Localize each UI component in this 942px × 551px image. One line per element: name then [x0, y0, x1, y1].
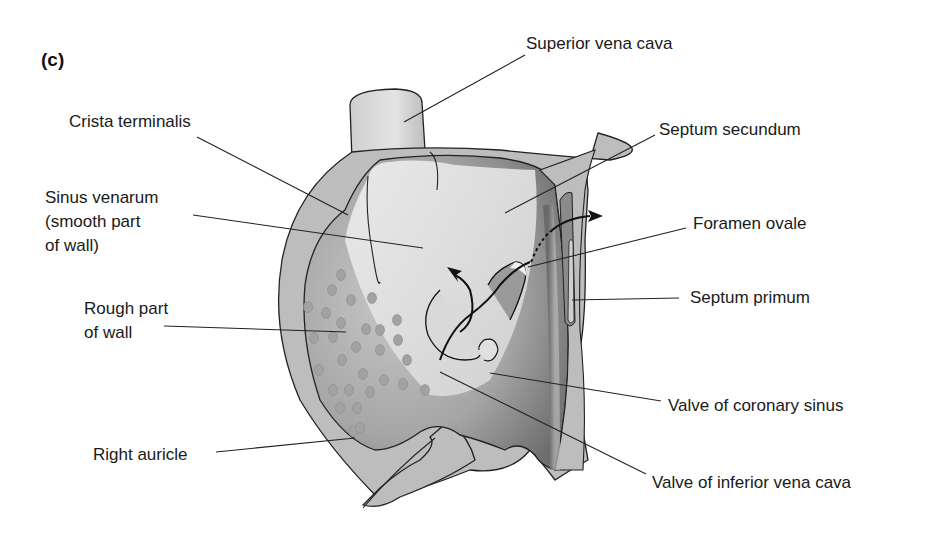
label-sinus-venarum-line2: (smooth part — [45, 210, 158, 234]
label-rough-part-line1: Rough part — [84, 297, 168, 321]
label-sinus-venarum-line1: Sinus venarum — [45, 186, 158, 210]
label-right-auricle: Right auricle — [93, 443, 188, 467]
label-sinus-venarum-line3: of wall) — [45, 234, 158, 258]
arrowhead-icon — [588, 210, 603, 222]
label-foramen-ovale: Foramen ovale — [693, 212, 806, 236]
label-superior-vena-cava: Superior vena cava — [526, 32, 672, 56]
right-atrium-illustration — [0, 0, 942, 551]
label-septum-secundum: Septum secundum — [659, 118, 801, 142]
label-septum-primum: Septum primum — [690, 286, 810, 310]
label-sinus-venarum: Sinus venarum (smooth part of wall) — [45, 186, 158, 258]
label-rough-part-line2: of wall — [84, 321, 168, 345]
label-valve-of-inferior-vena-cava: Valve of inferior vena cava — [652, 471, 851, 495]
label-crista-terminalis: Crista terminalis — [69, 110, 191, 134]
label-valve-of-coronary-sinus: Valve of coronary sinus — [668, 394, 843, 418]
label-rough-part-of-wall: Rough part of wall — [84, 297, 168, 345]
